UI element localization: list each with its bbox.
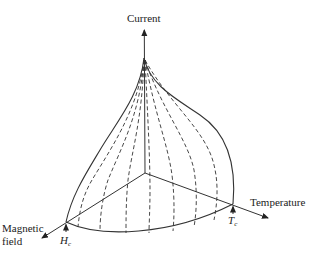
left-boundary-curve bbox=[66, 58, 144, 222]
critical-field-subscript: c bbox=[68, 240, 71, 248]
critical-temperature-subscript: c bbox=[234, 220, 237, 228]
contour-line bbox=[145, 60, 217, 220]
surface-contours bbox=[78, 60, 217, 233]
contour-line bbox=[145, 60, 196, 227]
current-axis-label: Current bbox=[127, 12, 161, 24]
contour-line bbox=[78, 60, 144, 227]
magnetic-field-axis bbox=[42, 173, 145, 238]
axes bbox=[42, 30, 268, 238]
temperature-axis-label: Temperature bbox=[250, 196, 305, 208]
magnetic-field-axis-label-line2: field bbox=[2, 235, 22, 247]
critical-field-label: Hc bbox=[60, 234, 71, 250]
critical-field-symbol: H bbox=[60, 234, 68, 246]
critical-surface-diagram bbox=[0, 0, 318, 256]
magnetic-field-axis-label-line1: Magnetic bbox=[2, 222, 44, 234]
current-axis bbox=[144, 30, 145, 173]
critical-temperature-label: Tc bbox=[228, 214, 237, 230]
contour-line bbox=[126, 60, 144, 233]
contour-line bbox=[145, 60, 150, 233]
